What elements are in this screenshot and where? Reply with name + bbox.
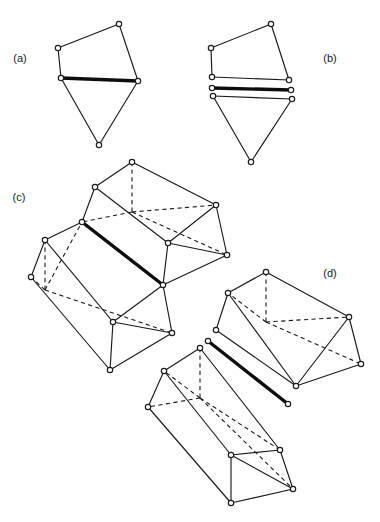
- edge: [231, 489, 293, 503]
- panel-b-vertices: [208, 21, 294, 164]
- vertex: [209, 74, 214, 79]
- vertex: [346, 314, 351, 319]
- edge: [113, 322, 172, 333]
- vertex: [58, 75, 63, 80]
- edge: [119, 24, 138, 81]
- edge: [163, 243, 168, 285]
- panel-d-group: (d): [145, 267, 363, 506]
- edge: [213, 96, 251, 162]
- edge: [61, 78, 99, 145]
- hidden-edge: [266, 322, 361, 364]
- hidden-edge: [200, 398, 280, 450]
- panel-b-triangle: [213, 96, 292, 162]
- vertex: [285, 401, 290, 406]
- panel-a-vertices: [55, 21, 140, 147]
- edge: [58, 48, 61, 78]
- hidden-edge: [45, 222, 82, 290]
- panel-c-vertices: [28, 159, 229, 372]
- edge: [45, 240, 113, 322]
- panel-c-lower-prism: [31, 222, 172, 370]
- hidden-edge: [228, 293, 266, 322]
- vertex: [116, 21, 121, 26]
- vertex: [107, 367, 112, 372]
- edge: [212, 77, 289, 80]
- vertex: [135, 78, 140, 83]
- vertex: [161, 368, 166, 373]
- vertex: [160, 282, 165, 287]
- edge: [216, 293, 228, 330]
- panel-label-d: (d): [323, 267, 336, 279]
- isolated-edge-highlight: [212, 88, 291, 90]
- edge: [164, 371, 231, 455]
- vertex: [268, 21, 273, 26]
- edge: [31, 240, 45, 277]
- edge: [45, 222, 82, 240]
- vertex: [129, 159, 134, 164]
- vertex: [28, 274, 33, 279]
- panel-a-thin-edges: [58, 24, 138, 145]
- panel-a-group: (a): [13, 21, 140, 147]
- edge: [200, 348, 280, 450]
- vertex: [79, 219, 84, 224]
- edge: [168, 205, 216, 243]
- panel-label-c: (c): [13, 191, 26, 203]
- edge: [228, 272, 266, 293]
- shared-edge-highlight: [82, 222, 163, 285]
- vertex: [213, 202, 218, 207]
- panel-c-group: (c): [13, 159, 230, 372]
- edge: [95, 162, 132, 187]
- vertex: [92, 184, 97, 189]
- vertex: [225, 290, 230, 295]
- vertex: [96, 142, 101, 147]
- vertex: [358, 361, 363, 366]
- panel-d-vertices: [145, 269, 363, 505]
- vertex: [213, 327, 218, 332]
- edge: [168, 243, 227, 255]
- vertex: [205, 338, 210, 343]
- panel-label-b: (b): [323, 52, 336, 64]
- edge: [251, 99, 292, 162]
- vertex: [293, 383, 298, 388]
- edge: [296, 317, 349, 386]
- vertex: [145, 404, 150, 409]
- edge: [148, 371, 164, 407]
- vertex: [228, 500, 233, 505]
- edge: [211, 48, 212, 77]
- edge: [113, 285, 163, 322]
- vertex: [169, 330, 174, 335]
- edge: [296, 364, 361, 386]
- vertex: [165, 240, 170, 245]
- edge: [211, 24, 271, 48]
- panel-b-quad: [211, 24, 289, 80]
- vertex: [289, 96, 294, 101]
- vertex: [42, 237, 47, 242]
- panel-d-upper-hidden-edges: [228, 272, 361, 364]
- vertex: [288, 87, 293, 92]
- hidden-edge: [45, 290, 172, 333]
- panel-c-hidden-edges: [31, 162, 227, 333]
- panel-c-upper-prism: [82, 162, 227, 285]
- edge: [110, 322, 113, 370]
- edge: [271, 24, 289, 80]
- edge: [148, 407, 231, 503]
- vertex: [290, 486, 295, 491]
- vertex: [263, 269, 268, 274]
- vertex: [210, 93, 215, 98]
- geometric-figure: (a): [0, 0, 380, 522]
- panel-d-lower-prism: [148, 348, 293, 503]
- vertex: [197, 345, 202, 350]
- edge: [31, 277, 110, 370]
- vertex: [224, 252, 229, 257]
- vertex: [209, 85, 214, 90]
- edge: [58, 24, 119, 48]
- vertex: [55, 45, 60, 50]
- panel-d-upper-prism: [216, 272, 361, 386]
- hidden-edge: [82, 212, 132, 222]
- shared-edge-highlight: [61, 78, 138, 81]
- edge: [132, 162, 216, 205]
- figure-canvas: (a): [0, 0, 380, 522]
- hidden-edge: [132, 205, 216, 212]
- edge: [216, 205, 227, 255]
- edge: [82, 187, 95, 222]
- edge: [164, 348, 200, 371]
